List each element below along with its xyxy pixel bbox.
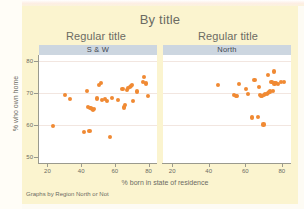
page-top-margin <box>0 0 304 6</box>
x-tick <box>115 163 116 167</box>
data-point <box>105 99 109 103</box>
chart-title: By title <box>22 12 298 27</box>
data-point <box>51 124 55 128</box>
panel-header-right: North <box>163 45 291 55</box>
x-tick <box>47 163 48 167</box>
data-point <box>142 75 146 79</box>
x-tick-label: 20 <box>40 168 54 174</box>
scatter-panel-right <box>163 55 291 163</box>
data-point <box>63 93 67 97</box>
y-tick-label: 60 <box>20 122 33 128</box>
data-point <box>256 115 260 119</box>
data-point <box>271 89 275 93</box>
gridline <box>163 93 291 94</box>
y-tick <box>34 125 38 126</box>
x-tick-label: 20 <box>165 168 179 174</box>
panel-title-right: Regular title <box>163 30 293 42</box>
x-tick <box>81 163 82 167</box>
x-tick-label: 40 <box>74 168 88 174</box>
gridline <box>39 61 157 62</box>
y-tick <box>34 157 38 158</box>
data-point <box>68 97 72 101</box>
data-point <box>110 96 114 100</box>
y-axis-line <box>38 55 39 163</box>
x-tick-label: 80 <box>275 168 289 174</box>
x-tick <box>209 163 210 167</box>
x-axis-line-left <box>38 163 157 164</box>
data-point <box>272 69 276 73</box>
gridline <box>163 61 291 62</box>
data-point <box>116 98 120 102</box>
chart-note: Graphs by Region North or Not <box>26 191 109 197</box>
data-point <box>108 135 112 139</box>
data-point <box>282 80 286 84</box>
data-point <box>95 96 99 100</box>
y-tick-label: 80 <box>20 58 33 64</box>
data-point <box>130 83 134 87</box>
data-point <box>82 130 86 134</box>
x-axis-line-right <box>162 163 291 164</box>
gridline <box>163 125 291 126</box>
y-tick-label: 70 <box>20 90 33 96</box>
panel-header-left: S & W <box>39 45 157 55</box>
data-point <box>246 92 250 96</box>
data-point <box>235 94 239 98</box>
y-tick-label: 50 <box>20 154 33 160</box>
x-tick <box>282 163 283 167</box>
panel-title-left: Regular title <box>34 30 158 42</box>
figure: By title Regular title Regular title S &… <box>0 0 304 209</box>
data-point <box>244 87 248 91</box>
data-point <box>135 89 139 93</box>
y-axis-title: % who own home <box>12 56 19 152</box>
x-tick <box>172 163 173 167</box>
x-tick-label: 60 <box>238 168 252 174</box>
data-point <box>266 73 270 77</box>
y-tick <box>34 61 38 62</box>
data-point <box>216 83 220 87</box>
x-tick-label: 60 <box>108 168 122 174</box>
gridline <box>39 93 157 94</box>
data-point <box>87 129 91 133</box>
data-point <box>252 78 256 82</box>
y-tick <box>34 93 38 94</box>
x-tick <box>245 163 246 167</box>
data-point <box>123 103 127 107</box>
gridline <box>39 125 157 126</box>
data-point <box>99 81 103 85</box>
x-tick-label: 40 <box>202 168 216 174</box>
x-tick <box>149 163 150 167</box>
data-point <box>261 122 265 126</box>
scatter-panel-left <box>39 55 157 163</box>
x-tick-label: 80 <box>142 168 156 174</box>
data-point <box>250 115 254 119</box>
data-point <box>92 107 96 111</box>
data-point <box>237 82 241 86</box>
data-point <box>131 99 135 103</box>
data-point <box>146 94 150 98</box>
data-point <box>120 87 124 91</box>
x-axis-title: % born in state of residence <box>39 179 291 186</box>
data-point <box>144 81 148 85</box>
data-point <box>257 85 261 89</box>
